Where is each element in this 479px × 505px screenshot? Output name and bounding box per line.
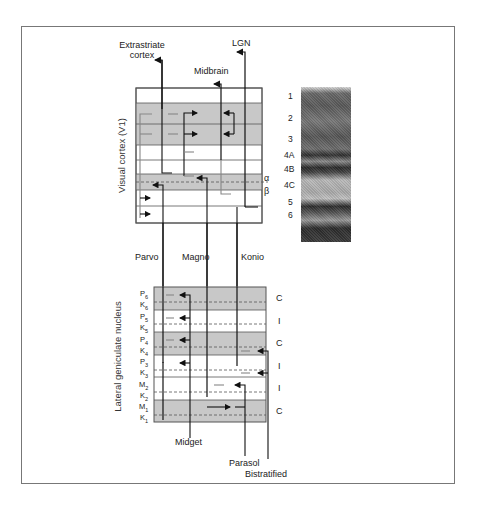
label-parasol: Parasol: [229, 458, 260, 468]
label-beta: β: [264, 186, 269, 196]
layer-label-4a: 4A: [284, 150, 294, 160]
lgn-layer-k3: K3: [140, 368, 148, 379]
label-lgn-nucleus: Lateral geniculate nucleus: [112, 297, 123, 417]
lgn-layer-m1: M1: [139, 402, 148, 413]
label-alpha: α: [264, 173, 269, 183]
lgn-layer-p5: P5: [140, 312, 148, 323]
v1-box: [136, 88, 268, 223]
label-bistratified: Bistratified: [245, 469, 287, 479]
layer-label-1: 1: [288, 91, 293, 101]
label-lgn-target: LGN: [232, 38, 251, 48]
layer-label-5: 5: [288, 197, 293, 207]
lgn-box: [154, 287, 266, 422]
lgn-layer-k1: K1: [140, 413, 148, 424]
lgn-layer-k4: K4: [140, 346, 148, 357]
layer-label-4c: 4C: [284, 180, 295, 190]
lgn-layer-m2: M2: [139, 380, 148, 391]
label-parvo: Parvo: [135, 252, 159, 262]
lgn-layer-k2: K2: [140, 391, 148, 402]
layer-label-2: 2: [288, 113, 293, 123]
lgn-layer-k6: K6: [140, 300, 148, 311]
label-magno: Magno: [182, 252, 210, 262]
lgn-layer-p3: P3: [140, 357, 148, 368]
layer-label-6: 6: [288, 210, 293, 220]
label-konio: Konio: [241, 252, 264, 262]
label-midget: Midget: [175, 437, 202, 447]
lgn-layer-p4: P4: [140, 335, 148, 346]
label-extrastriate: Extrastriate cortex: [112, 40, 172, 60]
eye-label-ipsi: I: [278, 383, 281, 393]
v1-micrograph-image: [301, 87, 351, 242]
eye-label-contra: C: [276, 406, 283, 416]
eye-label-contra: C: [276, 293, 283, 303]
layer-label-3: 3: [288, 134, 293, 144]
eye-label-ipsi: I: [278, 361, 281, 371]
eye-label-contra: C: [276, 338, 283, 348]
pathway-diagram: [0, 0, 479, 505]
lgn-layer-p6: P6: [140, 289, 148, 300]
layer-label-4b: 4B: [284, 164, 294, 174]
lgn-layer-k5: K5: [140, 323, 148, 334]
label-midbrain: Midbrain: [194, 66, 229, 76]
eye-label-ipsi: I: [278, 316, 281, 326]
label-visual-cortex: Visual cortex (V1): [116, 111, 127, 201]
